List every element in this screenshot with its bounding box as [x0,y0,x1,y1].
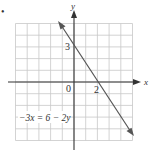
problem-bullet: • [1,6,5,17]
line-arrow-start-icon [58,21,66,30]
coordinate-plane: • x y 0 2 3 −3x = 6 − 2y [0,0,153,160]
origin-label: 0 [66,83,71,94]
x-axis-label: x [143,77,148,87]
x-axis-arrow-icon [133,79,141,85]
y-intercept-label: 3 [65,41,70,52]
y-axis-arrow-icon [71,10,77,18]
y-axis-label: y [70,1,75,11]
equation-label: −3x = 6 − 2y [19,113,71,123]
x-intercept-label: 2 [94,84,99,95]
